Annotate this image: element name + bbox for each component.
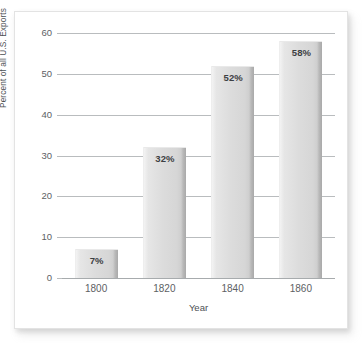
figure-root: Percent of all U.S. Exports 010203040506… bbox=[0, 0, 362, 343]
bar-value-label-1820: 32% bbox=[144, 154, 186, 164]
gridline-60 bbox=[62, 33, 335, 34]
y-tick-label-30: 30 bbox=[18, 151, 52, 161]
y-tick-label-50: 50 bbox=[18, 69, 52, 79]
bar-value-label-1840: 52% bbox=[212, 73, 254, 83]
bar-top-edge bbox=[76, 249, 118, 250]
bar-top-edge bbox=[212, 66, 254, 67]
bar-1820[interactable]: 32% bbox=[143, 147, 186, 278]
y-tick-label-40: 40 bbox=[18, 110, 52, 120]
plot-area: 7%32%52%58% bbox=[62, 33, 335, 278]
bar-top-edge bbox=[280, 41, 322, 42]
bar-1860[interactable]: 58% bbox=[279, 41, 322, 278]
bar-top-edge bbox=[144, 147, 186, 148]
y-tick-label-60: 60 bbox=[18, 28, 52, 38]
chart-card: Percent of all U.S. Exports 010203040506… bbox=[14, 11, 348, 329]
x-tick-label-1840: 1840 bbox=[203, 284, 263, 294]
bar-value-label-1800: 7% bbox=[76, 256, 118, 266]
x-axis-title: Year bbox=[62, 303, 335, 313]
gridline-0 bbox=[62, 278, 335, 279]
y-tick-label-20: 20 bbox=[18, 191, 52, 201]
bar-1800[interactable]: 7% bbox=[75, 249, 118, 278]
y-tick-label-10: 10 bbox=[18, 232, 52, 242]
bar-1840[interactable]: 52% bbox=[211, 66, 254, 278]
x-tick-label-1800: 1800 bbox=[66, 284, 126, 294]
y-tick-label-0: 0 bbox=[18, 273, 52, 283]
x-tick-label-1860: 1860 bbox=[271, 284, 331, 294]
x-tick-label-1820: 1820 bbox=[134, 284, 194, 294]
y-axis-title: Percent of all U.S. Exports bbox=[0, 0, 7, 108]
bar-value-label-1860: 58% bbox=[280, 48, 322, 58]
